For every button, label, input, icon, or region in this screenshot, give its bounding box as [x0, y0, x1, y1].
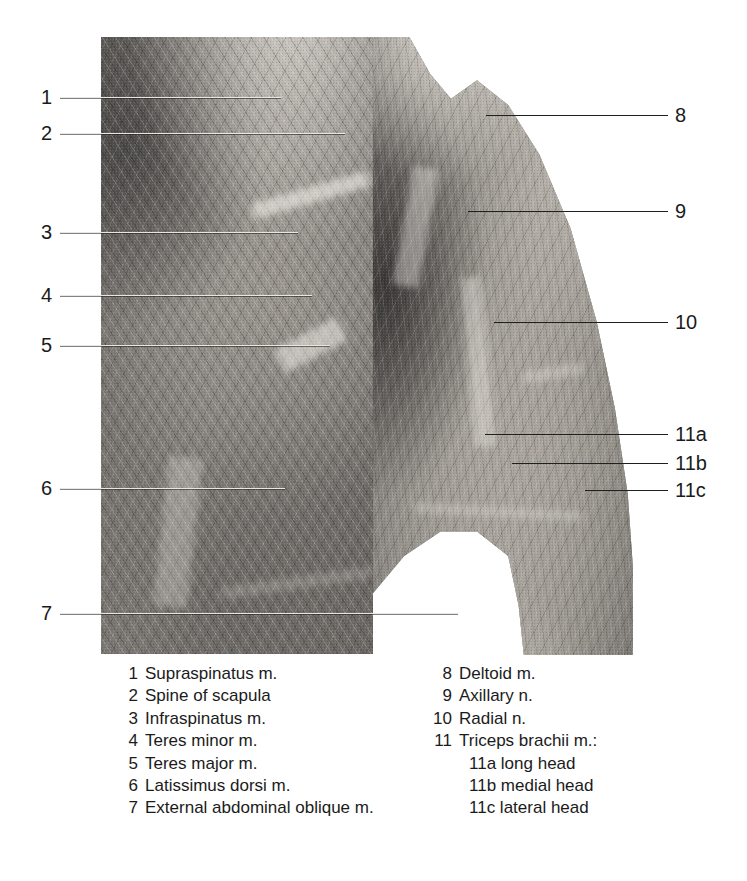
leader-line-5 [60, 345, 330, 346]
callout-number-11b: 11b [675, 453, 707, 473]
photo-grain-layer [373, 37, 633, 655]
leader-line-9 [468, 211, 668, 212]
legend-number: 4 [104, 731, 145, 751]
legend-item: 6Latissimus dorsi m. [104, 776, 374, 798]
callout-number-2: 2 [22, 123, 52, 143]
leader-line-11a [485, 434, 668, 435]
callout-number-11a: 11a [675, 424, 707, 444]
dissection-photo-shoulder-arm [373, 37, 633, 655]
leader-line-11c [585, 490, 668, 491]
legend-item: 2Spine of scapula [104, 686, 374, 708]
legend-number: 10 [418, 709, 459, 729]
figure-legend: 1Supraspinatus m. 2Spine of scapula 3Inf… [0, 664, 747, 864]
callout-number-8: 8 [675, 105, 686, 125]
legend-label: Supraspinatus m. [145, 664, 277, 684]
legend-label: External abdominal oblique m. [145, 798, 374, 818]
legend-column-left: 1Supraspinatus m. 2Spine of scapula 3Inf… [104, 664, 374, 821]
legend-label: Deltoid m. [459, 664, 536, 684]
legend-label: Triceps brachii m.: [459, 731, 597, 751]
legend-item: 4Teres minor m. [104, 731, 374, 753]
legend-label: Infraspinatus m. [145, 709, 266, 729]
legend-item: 11b medial head [418, 776, 597, 798]
legend-label: Radial n. [459, 709, 526, 729]
legend-number: 8 [418, 664, 459, 684]
legend-item: 8Deltoid m. [418, 664, 597, 686]
legend-item: 10Radial n. [418, 709, 597, 731]
callout-number-1: 1 [22, 87, 52, 107]
legend-number: 3 [104, 709, 145, 729]
legend-item: 3Infraspinatus m. [104, 709, 374, 731]
legend-number: 5 [104, 754, 145, 774]
legend-item: 5Teres major m. [104, 754, 374, 776]
callout-number-9: 9 [675, 201, 686, 221]
legend-label: Latissimus dorsi m. [145, 776, 290, 796]
callout-number-11c: 11c [675, 480, 706, 500]
legend-item: 1Supraspinatus m. [104, 664, 374, 686]
anatomy-figure: 1 2 3 4 5 6 7 8 9 10 11a 11b 11c [0, 0, 747, 660]
legend-item: 7External abdominal oblique m. [104, 798, 374, 820]
legend-label: Teres minor m. [145, 731, 257, 751]
legend-number: 7 [104, 798, 145, 818]
legend-label: Teres major m. [145, 754, 257, 774]
callout-number-6: 6 [22, 478, 52, 498]
callout-number-5: 5 [22, 335, 52, 355]
legend-number: 2 [104, 686, 145, 706]
legend-label: Spine of scapula [145, 686, 271, 706]
callout-number-7: 7 [22, 603, 52, 623]
legend-item: 9Axillary n. [418, 686, 597, 708]
callout-number-3: 3 [22, 222, 52, 242]
legend-item: 11c lateral head [418, 798, 597, 820]
leader-line-2 [60, 133, 345, 134]
leader-line-6 [60, 488, 285, 489]
legend-number: 9 [418, 686, 459, 706]
callout-number-4: 4 [22, 285, 52, 305]
legend-number: 6 [104, 776, 145, 796]
leader-line-11b [512, 463, 668, 464]
legend-number: 1 [104, 664, 145, 684]
callout-number-10: 10 [675, 312, 697, 332]
legend-column-right: 8Deltoid m. 9Axillary n. 10Radial n. 11T… [418, 664, 597, 821]
leader-line-10 [494, 322, 668, 323]
leader-line-8 [486, 115, 668, 116]
legend-number: 11 [418, 731, 459, 751]
legend-item: 11Triceps brachii m.: [418, 731, 597, 753]
leader-line-1 [60, 97, 281, 98]
legend-label: 11b medial head [418, 776, 593, 796]
legend-label: 11a long head [418, 754, 576, 774]
legend-label: 11c lateral head [418, 798, 589, 818]
leader-line-3 [60, 232, 298, 233]
legend-item: 11a long head [418, 754, 597, 776]
legend-label: Axillary n. [459, 686, 533, 706]
leader-line-4 [60, 295, 312, 296]
leader-line-7 [60, 613, 458, 614]
